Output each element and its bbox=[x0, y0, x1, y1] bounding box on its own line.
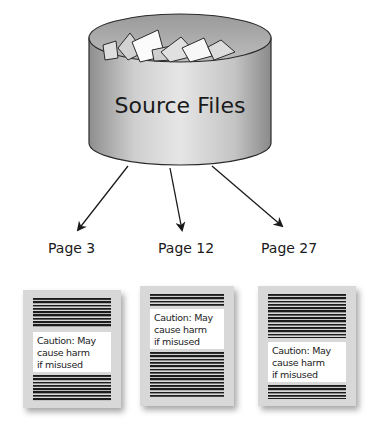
arrows bbox=[78, 166, 282, 230]
text-block bbox=[33, 375, 111, 401]
text-block bbox=[150, 294, 224, 307]
caution-box: Caution: May cause harm if misused bbox=[150, 309, 224, 349]
caution-box: Caution: May cause harm if misused bbox=[33, 332, 111, 372]
source-files-label: Source Files bbox=[115, 93, 246, 118]
arrow-to-page-27 bbox=[212, 166, 282, 226]
source-files-cylinder: Source Files bbox=[89, 14, 271, 165]
text-block bbox=[150, 352, 224, 398]
text-block bbox=[268, 294, 346, 338]
page-label-3: Page 3 bbox=[48, 240, 95, 256]
page-label-12: Page 12 bbox=[158, 240, 214, 256]
page-label-27: Page 27 bbox=[261, 240, 317, 256]
page-3-thumbnail: Caution: May cause harm if misused bbox=[23, 290, 121, 408]
text-block bbox=[268, 385, 346, 399]
page-27-thumbnail: Caution: May cause harm if misused bbox=[258, 286, 356, 406]
arrow-to-page-12 bbox=[170, 168, 182, 230]
text-block bbox=[33, 298, 111, 328]
arrow-to-page-3 bbox=[78, 166, 128, 230]
caution-box: Caution: May cause harm if misused bbox=[268, 342, 346, 382]
page-12-thumbnail: Caution: May cause harm if misused bbox=[140, 286, 234, 406]
